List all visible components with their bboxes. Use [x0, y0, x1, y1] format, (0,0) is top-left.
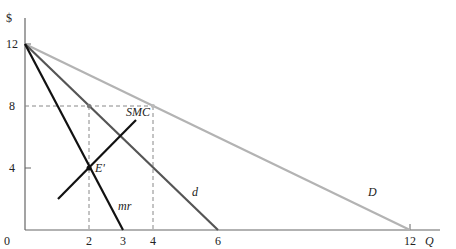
smc-curve: [58, 120, 136, 199]
equilibrium-label: E': [94, 161, 105, 175]
smc-label: SMC: [126, 105, 151, 119]
x-tick-label-2: 2: [86, 234, 92, 248]
D-label: D: [367, 185, 377, 199]
x-axis-label: Q: [425, 234, 434, 248]
point-q2-p8: [87, 104, 91, 108]
y-axis-label: $: [6, 11, 12, 25]
y-tick-label-12: 12: [6, 37, 18, 51]
mr-label: mr: [118, 199, 132, 213]
d-label: d: [192, 185, 199, 199]
x-tick-label-12: 12: [404, 234, 416, 248]
y-tick-label-8: 8: [9, 99, 15, 113]
market-demand-curve: [25, 44, 410, 230]
x-tick-label-6: 6: [215, 234, 221, 248]
demand-chart: $ Q 0 12 8 4 2 3 4 6 12 E' SMC d mr D: [0, 0, 456, 249]
origin-label: 0: [4, 234, 10, 248]
y-tick-label-4: 4: [9, 161, 15, 175]
equilibrium-point: [87, 166, 92, 171]
marginal-revenue-curve: [25, 44, 123, 230]
point-q4-p8: [151, 104, 155, 108]
x-tick-label-3: 3: [120, 234, 126, 248]
x-tick-label-4: 4: [150, 234, 156, 248]
